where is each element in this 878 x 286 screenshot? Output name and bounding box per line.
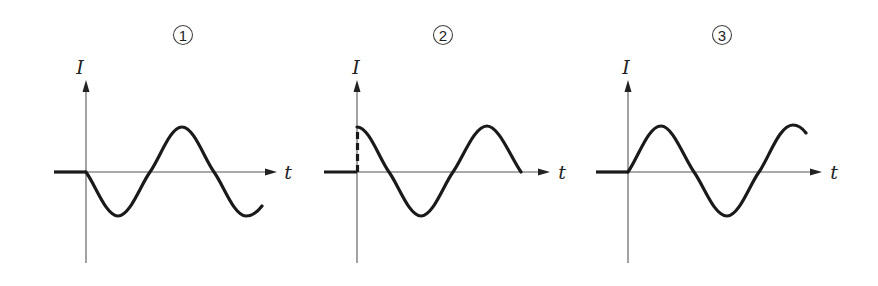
current-curve: [628, 125, 806, 216]
y-axis-label: I: [75, 56, 84, 78]
panel-number: 1: [179, 27, 187, 44]
x-axis-arrow-icon: [265, 169, 277, 176]
y-axis-arrow-icon: [625, 80, 632, 92]
panel-3: 3 I t: [596, 26, 838, 264]
current-curve: [357, 126, 521, 216]
panel-1: 1 I t: [54, 26, 292, 264]
panel-number: 3: [718, 27, 726, 44]
figure-canvas: 1 I t 2 I t: [0, 0, 878, 286]
x-axis-label: t: [284, 161, 292, 183]
x-axis-arrow-icon: [538, 169, 550, 176]
y-axis-label: I: [621, 56, 630, 78]
x-axis-label: t: [830, 161, 838, 183]
x-axis-label: t: [558, 161, 566, 183]
x-axis-arrow-icon: [810, 169, 822, 176]
panel-number: 2: [439, 27, 447, 44]
y-axis-arrow-icon: [83, 80, 90, 92]
panel-2: 2 I t: [324, 26, 566, 264]
panel-number-badge: 3: [713, 26, 732, 45]
y-axis-label: I: [351, 56, 360, 78]
panel-number-badge: 1: [174, 26, 193, 45]
y-axis-arrow-icon: [354, 80, 361, 92]
panel-number-badge: 2: [434, 26, 453, 45]
